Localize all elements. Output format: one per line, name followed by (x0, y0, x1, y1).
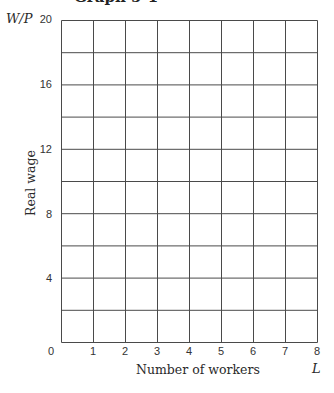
y-tick-16: 16 (22, 78, 52, 90)
x-tick-0: 0 (41, 345, 61, 357)
plot-grid (0, 0, 334, 393)
x-tick-6: 6 (243, 345, 263, 357)
x-tick-7: 7 (275, 345, 295, 357)
x-tick-4: 4 (179, 345, 199, 357)
x-tick-2: 2 (115, 345, 135, 357)
y-tick-12: 12 (22, 143, 52, 155)
y-tick-4: 4 (22, 272, 52, 284)
x-tick-8: 8 (307, 345, 327, 357)
y-tick-20: 20 (22, 13, 52, 25)
x-tick-3: 3 (147, 345, 167, 357)
x-tick-1: 1 (83, 345, 103, 357)
y-tick-8: 8 (22, 208, 52, 220)
x-tick-5: 5 (211, 345, 231, 357)
